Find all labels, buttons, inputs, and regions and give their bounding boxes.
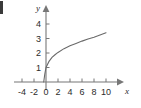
y-tick-label-1: 1 <box>36 63 41 73</box>
x-axis <box>14 79 124 86</box>
x-tick-label-0: -4 <box>18 87 26 97</box>
x-axis-arrow-icon <box>117 79 124 86</box>
log-curve-chart: -4 -2 0 2 4 6 8 10 1 2 3 4 y x <box>0 0 141 108</box>
x-axis-label: x <box>124 86 129 96</box>
chart-figure: -4 -2 0 2 4 6 8 10 1 2 3 4 y x <box>0 0 141 108</box>
x-tick-label-7: 10 <box>101 87 111 97</box>
x-tick-label-1: -2 <box>30 87 38 97</box>
x-tick-label-3: 2 <box>55 87 60 97</box>
y-axis-arrow-icon <box>43 5 50 12</box>
x-tick-label-2: 0 <box>43 87 48 97</box>
scan-edge-artifact <box>0 1 3 14</box>
y-axis-label: y <box>35 3 40 13</box>
data-curve <box>44 33 106 82</box>
y-tick-label-3: 3 <box>36 34 41 44</box>
y-tick-label-4: 4 <box>36 19 41 29</box>
x-tick-label-6: 8 <box>91 87 96 97</box>
x-tick-label-5: 6 <box>79 87 84 97</box>
y-axis <box>43 5 50 90</box>
y-tick-label-2: 2 <box>36 48 41 58</box>
x-tick-label-4: 4 <box>67 87 72 97</box>
